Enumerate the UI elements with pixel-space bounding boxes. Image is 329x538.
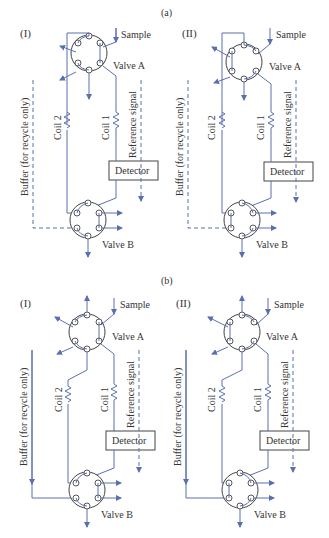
panel-label: (II) bbox=[182, 27, 197, 40]
coil1-label: Coil 1 bbox=[255, 115, 266, 140]
valve-b-label: Valve B bbox=[254, 509, 286, 520]
diagram-canvas: (a) (b) (I) Sample Valve A Coil 2 Coil 1 bbox=[0, 0, 329, 538]
coil2-label: Coil 2 bbox=[206, 115, 217, 140]
section-label-a: (a) bbox=[161, 7, 172, 19]
valve-a-label: Valve A bbox=[269, 61, 302, 72]
sample-label: Sample bbox=[276, 29, 307, 40]
valve-a-label: Valve A bbox=[266, 331, 299, 342]
valve-b-label: Valve B bbox=[101, 509, 133, 520]
coil1-label: Coil 1 bbox=[99, 387, 110, 412]
coil1-label: Coil 1 bbox=[100, 115, 111, 140]
detector-label: Detector bbox=[270, 166, 305, 177]
valve-a-label: Valve A bbox=[113, 60, 146, 71]
coil2-label: Coil 2 bbox=[53, 387, 64, 412]
detector-label: Detector bbox=[266, 435, 301, 446]
panel-a-II: (II) Sample Valve A Coil 2 Coil 1 Detect… bbox=[174, 27, 313, 257]
buffer-label: Buffer (for recycle only) bbox=[174, 98, 186, 196]
sample-label: Sample bbox=[121, 29, 152, 40]
sample-label: Sample bbox=[120, 299, 151, 310]
buffer-label: Buffer (for recycle only) bbox=[18, 368, 30, 466]
panel-a-I: (I) Sample Valve A Coil 2 Coil 1 Detecto… bbox=[19, 27, 158, 257]
reference-signal-label: Reference signal bbox=[279, 361, 290, 428]
buffer-label: Buffer (for recycle only) bbox=[19, 98, 31, 196]
reference-signal-label: Reference signal bbox=[282, 91, 293, 158]
valve-a-label: Valve A bbox=[112, 331, 145, 342]
section-label-b: (b) bbox=[161, 275, 173, 287]
panel-label: (II) bbox=[176, 297, 191, 310]
panel-label: (I) bbox=[20, 27, 31, 40]
detector-label: Detector bbox=[115, 165, 150, 176]
reference-signal-label: Reference signal bbox=[125, 361, 136, 428]
coil2-label: Coil 2 bbox=[206, 387, 217, 412]
sample-label: Sample bbox=[274, 299, 305, 310]
buffer-label: Buffer (for recycle only) bbox=[172, 368, 184, 466]
panel-b-I: (I) Sample Valve A Coil 2 Coil 1 Detecto… bbox=[18, 296, 155, 527]
valve-b-label: Valve B bbox=[102, 239, 134, 250]
coil2-label: Coil 2 bbox=[52, 115, 63, 140]
coil1-label: Coil 1 bbox=[252, 387, 263, 412]
detector-label: Detector bbox=[112, 435, 147, 446]
panel-label: (I) bbox=[20, 297, 31, 310]
reference-signal-label: Reference signal bbox=[127, 91, 138, 158]
valve-b-label: Valve B bbox=[256, 239, 288, 250]
panel-b-II: (II) Sample Valve A Coil 2 Coil 1 Detect… bbox=[172, 296, 309, 527]
